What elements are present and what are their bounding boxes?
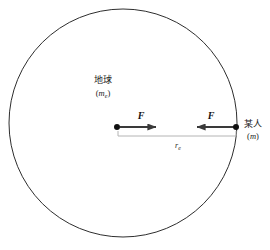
person-name-label: 某人 bbox=[244, 119, 262, 129]
force-right-label: F bbox=[207, 110, 215, 121]
radius-dimension-line bbox=[118, 131, 236, 136]
radius-label: re bbox=[175, 141, 181, 151]
figure-container: 地球 (me) 某人 (m) F F re bbox=[0, 0, 270, 250]
force-left-label: F bbox=[137, 110, 145, 121]
person-mass-label: (m) bbox=[247, 131, 259, 141]
radius-subscript: e bbox=[178, 145, 181, 151]
earth-center-point bbox=[114, 124, 120, 130]
earth-name-label: 地球 bbox=[94, 74, 112, 85]
person-mass-paren-close: ) bbox=[256, 131, 259, 141]
earth-mass-label: (me) bbox=[96, 88, 111, 99]
earth-circle bbox=[9, 9, 237, 237]
person-point bbox=[233, 124, 239, 130]
force-diagram-svg: 地球 (me) 某人 (m) F F re bbox=[0, 0, 270, 250]
earth-mass-paren-close: ) bbox=[107, 88, 110, 98]
